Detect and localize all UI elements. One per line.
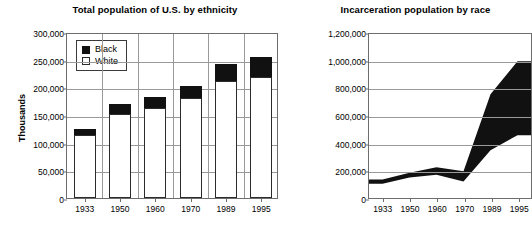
y-axis-label-left: Thousands: [17, 94, 27, 142]
x-axis-tick-mark: [226, 198, 227, 202]
y-axis-tick-label: 400,000: [335, 140, 366, 150]
bar-segment-black: [109, 104, 131, 115]
plot-area-bar-chart: Black White 050,000100,000150,000200,000…: [66, 33, 278, 199]
gridline: [369, 172, 531, 173]
bar-segment-white: [144, 108, 166, 198]
y-axis-tick-label: 200,000: [335, 167, 366, 177]
y-axis-tick-label: 200,000: [33, 84, 64, 94]
x-axis-tick-label: 1970: [181, 204, 200, 214]
area-band-path: [369, 61, 531, 183]
y-axis-tick-label: 50,000: [38, 167, 64, 177]
x-axis-tick-label: 1960: [146, 204, 165, 214]
x-axis-tick-mark: [120, 198, 121, 202]
x-axis-tick-label: 1960: [428, 204, 447, 214]
bar-segment-black: [250, 57, 272, 77]
y-axis-tick-mark: [366, 172, 369, 173]
gridline: [369, 89, 531, 90]
panel-total-population: Total population of U.S. by ethnicity Th…: [0, 0, 288, 236]
y-axis-tick-label: 150,000: [33, 112, 64, 122]
x-axis-tick-mark: [465, 198, 466, 202]
y-axis-tick-label: 100,000: [33, 140, 64, 150]
bar-1933: [74, 129, 96, 198]
y-axis-tick-mark: [366, 61, 369, 62]
y-axis-tick-mark: [64, 172, 67, 173]
bar-segment-white: [180, 98, 202, 198]
bar-1970: [180, 86, 202, 198]
category-separator: [244, 34, 245, 198]
bar-segment-black: [74, 129, 96, 135]
y-axis-tick-mark: [64, 144, 67, 145]
y-axis-tick-label: 1,000,000: [328, 57, 366, 67]
x-axis-tick-label: 1970: [455, 204, 474, 214]
y-axis-tick-label: 800,000: [335, 84, 366, 94]
y-axis-tick-label: 0: [361, 195, 366, 205]
y-axis-tick-label: 250,000: [33, 57, 64, 67]
y-axis-tick-mark: [366, 200, 369, 201]
y-axis-tick-mark: [366, 144, 369, 145]
x-axis-tick-mark: [383, 198, 384, 202]
x-axis-tick-mark: [155, 198, 156, 202]
x-axis-tick-label: 1933: [75, 204, 94, 214]
gridline: [67, 145, 277, 146]
x-axis-tick-label: 1989: [217, 204, 236, 214]
gridline: [369, 117, 531, 118]
legend-swatch-black-icon: [82, 46, 90, 54]
panel-incarceration-population: Incarceration population by race 0200,00…: [288, 0, 531, 236]
x-axis-tick-mark: [410, 198, 411, 202]
category-separator: [102, 34, 103, 198]
bar-segment-white: [74, 135, 96, 198]
bar-1960: [144, 97, 166, 198]
bar-segment-white: [109, 114, 131, 198]
x-axis-tick-label: 1933: [373, 204, 392, 214]
category-separator: [208, 34, 209, 198]
legend-item-black: Black: [82, 44, 118, 56]
category-separator: [173, 34, 174, 198]
x-axis-tick-label: 1995: [510, 204, 529, 214]
gridline: [67, 172, 277, 173]
y-axis-tick-label: 600,000: [335, 112, 366, 122]
bar-segment-white: [250, 77, 272, 198]
gridline: [67, 89, 277, 90]
x-axis-tick-mark: [191, 198, 192, 202]
y-axis-tick-mark: [366, 89, 369, 90]
y-axis-tick-mark: [64, 89, 67, 90]
x-axis-tick-label: 1950: [111, 204, 130, 214]
bar-segment-white: [215, 81, 237, 198]
gridline: [67, 62, 277, 63]
y-axis-tick-label: 0: [59, 195, 64, 205]
y-axis-tick-label: 1,200,000: [328, 29, 366, 39]
x-axis-tick-mark: [492, 198, 493, 202]
gridline: [67, 117, 277, 118]
bar-1989: [215, 64, 237, 198]
x-axis-tick-mark: [261, 198, 262, 202]
incarceration-band: [369, 34, 531, 198]
page-title: Total population of U.S. by ethnicity: [0, 4, 288, 16]
bar-segment-black: [215, 64, 237, 81]
x-axis-tick-mark: [519, 198, 520, 202]
y-axis-tick-mark: [64, 200, 67, 201]
y-axis-tick-mark: [64, 117, 67, 118]
page-title-right: Incarceration population by race: [288, 4, 531, 16]
bar-1995: [250, 57, 272, 198]
x-axis-tick-label: 1989: [483, 204, 502, 214]
y-axis-tick-mark: [64, 34, 67, 35]
bar-segment-black: [180, 86, 202, 99]
y-axis-tick-mark: [366, 34, 369, 35]
bar-segment-black: [144, 97, 166, 108]
x-axis-tick-label: 1950: [401, 204, 420, 214]
y-axis-tick-label: 300,000: [33, 29, 64, 39]
x-axis-tick-label: 1995: [252, 204, 271, 214]
legend-label-black: Black: [95, 44, 117, 56]
bar-1950: [109, 104, 131, 198]
y-axis-tick-mark: [64, 61, 67, 62]
gridline: [369, 145, 531, 146]
plot-area-area-chart: 0200,000400,000600,000800,0001,000,0001,…: [368, 33, 532, 199]
gridline: [369, 62, 531, 63]
y-axis-tick-mark: [366, 117, 369, 118]
x-axis-tick-mark: [85, 198, 86, 202]
category-separator: [138, 34, 139, 198]
x-axis-tick-mark: [437, 198, 438, 202]
